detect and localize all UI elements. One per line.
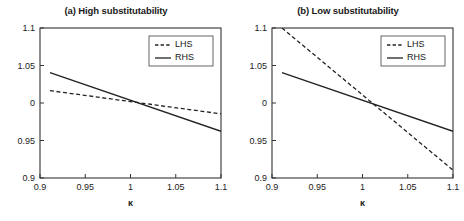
chart-panel-a: (a) High substitutability0.90.9501.051.1… xyxy=(0,0,232,221)
y-tick-label: 1.1 xyxy=(22,23,35,33)
legend: LHSRHS xyxy=(381,36,445,66)
series-group xyxy=(50,73,221,132)
x-tick-label: 1.1 xyxy=(447,182,460,192)
x-axis-title: κ xyxy=(360,198,366,208)
plot-area-a: 0.90.9501.051.10.90.9511.051.1κLHSRHS xyxy=(0,0,232,221)
legend-label-lhs: LHS xyxy=(407,39,425,49)
legend-label-lhs: LHS xyxy=(175,39,193,49)
legend-label-rhs: RHS xyxy=(175,52,194,62)
y-tick-label: 0.95 xyxy=(17,136,35,146)
x-axis: 0.90.9511.051.1 xyxy=(266,174,460,192)
x-tick-label: 0.9 xyxy=(266,182,279,192)
x-tick-label: 1 xyxy=(360,182,365,192)
y-tick-label: 0 xyxy=(262,98,267,108)
x-tick-label: 0.95 xyxy=(308,182,326,192)
series-line-rhs xyxy=(50,73,221,132)
x-axis-title: κ xyxy=(128,198,134,208)
x-tick-label: 1.05 xyxy=(167,182,185,192)
plot-area-b: 0.90.9501.051.10.90.9511.051.1κLHSRHS xyxy=(232,0,464,221)
legend-label-rhs: RHS xyxy=(407,52,426,62)
legend: LHSRHS xyxy=(149,36,213,66)
y-tick-label: 1.1 xyxy=(254,23,267,33)
chart-panel-b: (b) Low substitutability0.90.9501.051.10… xyxy=(232,0,464,221)
x-tick-label: 0.95 xyxy=(76,182,94,192)
y-tick-label: 0.95 xyxy=(249,136,267,146)
x-tick-label: 1.1 xyxy=(215,182,228,192)
series-line-rhs xyxy=(282,73,453,132)
x-tick-label: 0.9 xyxy=(34,182,47,192)
y-tick-label: 1.05 xyxy=(17,61,35,71)
figure-two-panel-line-chart: (a) High substitutability0.90.9501.051.1… xyxy=(0,0,464,221)
y-tick-label: 0 xyxy=(30,98,35,108)
x-tick-label: 1.05 xyxy=(399,182,417,192)
x-axis: 0.90.9511.051.1 xyxy=(34,174,228,192)
x-tick-label: 1 xyxy=(128,182,133,192)
y-tick-label: 1.05 xyxy=(249,61,267,71)
